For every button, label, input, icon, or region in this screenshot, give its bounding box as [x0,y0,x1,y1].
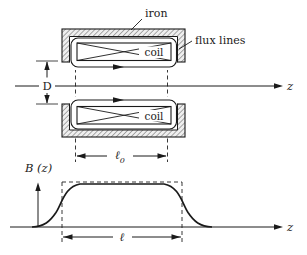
field-plot: B (z) z ℓ [10,161,294,244]
magnetic-lens-figure: coil coil iron flux lines z D [0,0,307,255]
figure-svg: coil coil iron flux lines z D [0,0,307,255]
b-axis-arrowhead [35,183,40,192]
plot-z-label: z [286,220,294,234]
d-arrowhead-down [44,95,49,104]
plot-z-arrowhead [274,224,283,229]
l0-arrowhead-left [77,153,86,158]
flux-lines-label: flux lines [195,34,246,47]
l0-subscript: 0 [120,156,125,165]
l-arrowhead-left [64,234,73,239]
coil-length-dimension: ℓ0 [77,146,167,165]
d-arrowhead-up [44,62,49,71]
b-axis-label: B (z) [24,161,52,175]
field-curve [32,184,212,227]
iron-pointer-line [131,19,142,30]
effective-length-dimension: ℓ [63,229,181,244]
z-axis-arrowhead [274,83,283,88]
iron-label: iron [145,7,167,20]
l0-arrowhead-right [158,153,167,158]
z-axis-label: z [286,79,294,93]
coil-label-top: coil [145,46,165,58]
l-label: ℓ [120,230,125,244]
bottom-magnet: coil [62,97,185,138]
coil-label-bottom: coil [145,110,165,122]
l-arrowhead-right [172,234,181,239]
top-magnet: coil [62,29,185,70]
d-label: D [42,79,51,93]
